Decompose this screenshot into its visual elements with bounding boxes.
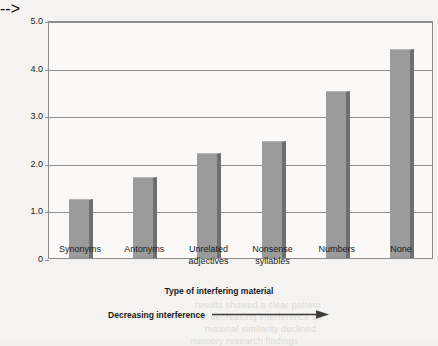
bar-slot [370,22,434,258]
bar-slot [177,22,241,258]
annotation-label: Decreasing interference [108,310,205,320]
x-axis-tick-label-line: None [361,244,438,256]
y-axis-tick-mark [45,260,49,261]
bar-slot [113,22,177,258]
bar-series [49,22,432,258]
right-arrow-icon [212,309,330,320]
x-axis-tick-label-line: syllables [233,256,313,268]
bar [262,141,286,258]
decreasing-interference-annotation: Decreasing interference [0,309,438,320]
bar [326,91,350,258]
bleedthrough-line: memory research findings [190,336,298,346]
bar-slot [49,22,113,258]
bar [390,49,414,258]
bar-slot [306,22,370,258]
bar-slot [242,22,306,258]
plot-area [48,21,433,259]
y-axis-tick-label: 5.0 [3,16,43,26]
y-axis-tick-label: 3.0 [3,111,43,121]
y-axis-tick-label: 4.0 [3,64,43,74]
x-axis-tick-label: None [361,244,438,256]
bar [197,153,221,258]
y-axis-tick-label: 2.0 [3,159,43,169]
x-axis-title: Type of interfering material [0,286,438,296]
y-axis-tick-label: 0 [3,254,43,264]
bleedthrough-line: material similarity declined [205,324,316,334]
y-axis-tick-label: 1.0 [3,206,43,216]
